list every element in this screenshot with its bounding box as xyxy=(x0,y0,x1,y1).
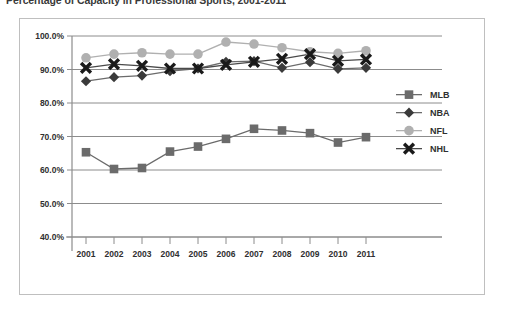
x-axis-label: 2007 xyxy=(245,249,264,259)
data-point-mlb xyxy=(166,147,175,156)
x-axis-label: 2004 xyxy=(161,249,180,259)
data-point-nfl xyxy=(193,49,203,59)
data-point-nba xyxy=(109,72,119,82)
x-axis-label: 2006 xyxy=(217,249,236,259)
data-point-nfl xyxy=(109,49,119,59)
legend-marker-nfl xyxy=(404,126,414,136)
data-point-nba xyxy=(137,70,147,80)
x-axis-label: 2001 xyxy=(77,249,96,259)
data-point-nfl xyxy=(81,53,91,63)
x-axis-label: 2005 xyxy=(189,249,208,259)
data-point-nfl xyxy=(249,39,259,49)
data-point-mlb xyxy=(138,164,147,173)
data-point-nfl xyxy=(165,49,175,59)
legend-label-nba: NBA xyxy=(430,108,450,118)
x-axis-label: 2002 xyxy=(105,249,124,259)
y-axis-label: 40.0% xyxy=(40,232,65,242)
data-point-mlb xyxy=(306,129,315,138)
x-axis-label: 2003 xyxy=(133,249,152,259)
data-point-nfl xyxy=(277,43,287,53)
x-axis-label: 2008 xyxy=(273,249,292,259)
y-axis-label: 80.0% xyxy=(40,98,65,108)
y-axis-label: 50.0% xyxy=(40,199,65,209)
legend-label-mlb: MLB xyxy=(430,90,450,100)
data-point-mlb xyxy=(82,148,91,157)
line-chart: 40.0%50.0%60.0%70.0%80.0%90.0%100.0%2001… xyxy=(20,19,484,294)
legend-label-nhl: NHL xyxy=(430,144,449,154)
plot-area-frame: 40.0%50.0%60.0%70.0%80.0%90.0%100.0%2001… xyxy=(19,18,485,295)
x-axis-label: 2009 xyxy=(301,249,320,259)
y-axis-label: 60.0% xyxy=(40,165,65,175)
x-axis-label: 2010 xyxy=(329,249,348,259)
y-axis-label: 100.0% xyxy=(35,31,64,41)
data-point-nba xyxy=(81,76,91,86)
legend-label-nfl: NFL xyxy=(430,126,448,136)
chart-figure: Percentage of Capacity in Professional S… xyxy=(0,0,506,318)
data-point-nfl xyxy=(137,48,147,58)
data-point-mlb xyxy=(362,133,371,142)
y-axis-label: 90.0% xyxy=(40,65,65,75)
data-point-mlb xyxy=(334,138,343,147)
legend-marker-nba xyxy=(404,108,414,118)
data-point-mlb xyxy=(110,165,119,174)
data-point-nfl xyxy=(221,37,231,47)
data-point-mlb xyxy=(278,126,287,135)
legend-marker-mlb xyxy=(405,90,414,99)
x-axis-label: 2011 xyxy=(357,249,376,259)
data-point-mlb xyxy=(222,135,231,144)
y-axis-label: 70.0% xyxy=(40,132,65,142)
data-point-mlb xyxy=(250,124,259,133)
data-point-mlb xyxy=(194,142,203,151)
chart-title: Percentage of Capacity in Professional S… xyxy=(6,0,286,6)
